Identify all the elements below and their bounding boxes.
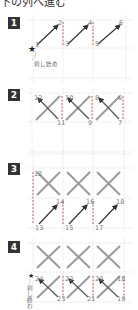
svg-text:6: 6: [119, 19, 123, 27]
cross-stitch-diagram: ★ 1 2 3 4 5 6 刺し始め 12 11 10 9 8 7 6: [0, 0, 138, 310]
svg-text:20: 20: [95, 275, 103, 283]
svg-text:14: 14: [56, 198, 64, 206]
svg-text:18: 18: [116, 198, 124, 206]
start-label: 刺し始め: [34, 60, 58, 68]
svg-text:18: 18: [117, 275, 125, 283]
svg-text:19: 19: [117, 295, 125, 303]
svg-text:わ: わ: [27, 303, 33, 309]
svg-text:16: 16: [86, 198, 94, 206]
svg-text:11: 11: [57, 119, 65, 127]
svg-text:13: 13: [35, 224, 43, 232]
svg-text:12: 12: [34, 170, 42, 178]
svg-text:21: 21: [87, 295, 95, 303]
step1-arrows: [37, 25, 120, 45]
end-star-icon: ★: [28, 272, 34, 280]
svg-text:17: 17: [95, 224, 103, 232]
svg-text:3: 3: [65, 40, 69, 48]
svg-text:24: 24: [35, 275, 43, 283]
svg-text:5: 5: [95, 40, 99, 48]
svg-text:22: 22: [65, 275, 73, 283]
svg-text:15: 15: [65, 224, 73, 232]
svg-text:9: 9: [88, 119, 92, 127]
svg-text:23: 23: [57, 295, 65, 303]
svg-text:10: 10: [65, 94, 73, 102]
step1-grid: [28, 15, 133, 82]
svg-text:2: 2: [58, 19, 62, 27]
end-label: 刺 し 終 わ: [27, 284, 33, 309]
svg-text:7: 7: [118, 119, 122, 127]
svg-text:4: 4: [88, 19, 92, 27]
svg-text:8: 8: [95, 94, 99, 102]
svg-text:12: 12: [34, 94, 42, 102]
svg-text:6: 6: [118, 94, 122, 102]
svg-text:1: 1: [35, 41, 39, 49]
